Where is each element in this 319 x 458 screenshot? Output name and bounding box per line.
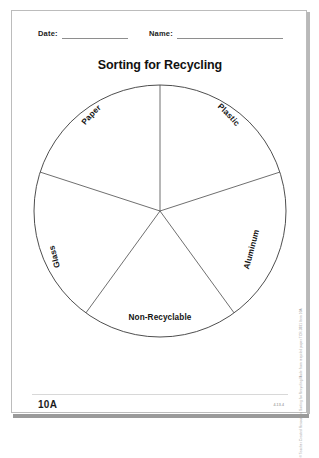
name-label: Name: xyxy=(149,29,173,39)
sector-label-non-recyclable: Non-Recyclable xyxy=(129,313,192,322)
worksheet-page: Date: Name: Sorting for Recycling xyxy=(11,10,307,413)
side-credit-text: © Teacher Created Resources Sorting for … xyxy=(299,308,303,457)
page-title: Sorting for Recycling xyxy=(12,58,308,72)
footer-divider xyxy=(32,394,288,395)
header-fields: Date: Name: xyxy=(12,29,308,47)
date-field[interactable]: Date: xyxy=(38,29,128,39)
recycling-pie-diagram: Paper Plastic Aluminum Non-Recyclable Gl… xyxy=(24,75,296,347)
date-label: Date: xyxy=(38,29,58,39)
name-field[interactable]: Name: xyxy=(149,29,283,39)
name-input-rule[interactable] xyxy=(177,29,283,39)
page-shadow-right xyxy=(307,12,310,414)
reference-code: 4.13.4 xyxy=(273,403,284,407)
date-input-rule[interactable] xyxy=(62,29,128,39)
page-shadow-bottom xyxy=(13,414,309,418)
page-number: 10A xyxy=(38,399,57,410)
